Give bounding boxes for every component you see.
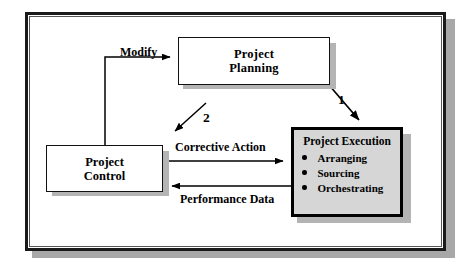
edge-label-modify: Modify bbox=[120, 45, 157, 60]
execution-title: Project Execution bbox=[298, 135, 396, 148]
bullet-icon bbox=[302, 155, 307, 160]
control-title-line2: Control bbox=[84, 169, 125, 183]
execution-item-label: Orchestrating bbox=[318, 181, 384, 196]
control-title-line1: Project bbox=[84, 155, 125, 169]
execution-item-list: Arranging Sourcing Orchestrating bbox=[298, 151, 396, 197]
execution-item-label: Arranging bbox=[318, 151, 368, 166]
planning-box-shadow-right bbox=[330, 43, 336, 89]
planning-title-line2: Planning bbox=[229, 61, 279, 75]
bullet-icon bbox=[302, 185, 307, 190]
edge-label-one: 1 bbox=[338, 92, 345, 108]
list-item: Orchestrating bbox=[302, 181, 396, 196]
edge-label-corrective-action: Corrective Action bbox=[175, 140, 266, 155]
diagram-canvas: Project Planning Project Control Project… bbox=[0, 0, 473, 269]
list-item: Sourcing bbox=[302, 166, 396, 181]
node-project-planning[interactable]: Project Planning bbox=[178, 37, 330, 85]
bullet-icon bbox=[302, 170, 307, 175]
node-project-execution[interactable]: Project Execution Arranging Sourcing Orc… bbox=[291, 127, 403, 217]
execution-box-shadow-right bbox=[403, 134, 411, 223]
list-item: Arranging bbox=[302, 151, 396, 166]
edge-label-performance-data: Performance Data bbox=[180, 192, 274, 207]
node-project-control[interactable]: Project Control bbox=[46, 145, 163, 192]
execution-item-label: Sourcing bbox=[318, 166, 360, 181]
control-box-shadow-right bbox=[163, 151, 169, 196]
planning-title-line1: Project bbox=[229, 47, 279, 61]
edge-label-two: 2 bbox=[203, 110, 210, 126]
